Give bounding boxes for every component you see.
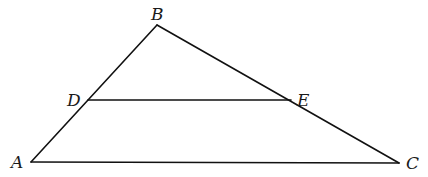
label-d: D [66,90,81,110]
label-a: A [9,152,23,172]
segment-ab [31,25,157,162]
segment-bc [157,25,399,163]
triangle-diagram: B D E A C [0,0,428,177]
label-b: B [150,4,164,24]
segment-ac [31,162,399,163]
label-c: C [406,153,419,173]
label-e: E [296,90,310,110]
